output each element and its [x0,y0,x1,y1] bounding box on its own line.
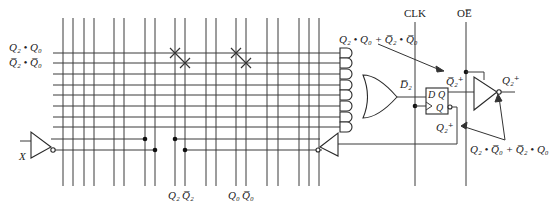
input-x-label: X [18,150,27,162]
and-output-label: Q₂ • Q₀ + Q̅₂ • Q̅₀ [339,33,418,45]
clk-label: CLK [404,7,426,19]
or-gate [352,53,397,118]
output-expression-label: Q₂ • Q̅₀ + Q̅₂ • Q₀ [470,143,549,155]
d2-label: D̅₂ [399,78,412,90]
ff-qbar-label: Q [436,102,444,113]
col-q0-label: Q₀ [228,189,240,201]
and-gate-array [340,48,352,132]
q2-plus-output-label: Q₂⁺ [502,74,520,86]
col-q0bar-label: Q̅₀ [242,189,254,201]
ff-d-label: D [427,89,436,100]
output-buffer [474,77,501,110]
product-term-rows [53,53,340,127]
q2-plus-feedback-label: Q₂⁺ [436,121,454,133]
q2-plus-bar-label: Q̅₂⁺ [446,75,464,87]
junction-dot [143,137,148,142]
col-q2-label: Q₂ [168,189,180,201]
row2-label: Q̅₂ • Q̅₀ [9,56,42,68]
row1-label: Q₂ • Q₀ [9,41,42,53]
fuse-marks [170,48,251,68]
junction-dot [153,148,158,153]
vertical-input-lines [63,18,319,186]
col-q2bar-label: Q̅₂ [182,189,194,201]
oe-label: OE̅ [457,7,472,19]
ff-q-label: Q [438,89,446,100]
junction-dot [173,137,178,142]
pal-logic-diagram: Q₂ • Q₀ Q̅₂ • Q̅₀ Q₂ • Q₀ + Q̅₂ • Q̅₀ D̅… [0,0,551,207]
junction-dot [183,148,188,153]
